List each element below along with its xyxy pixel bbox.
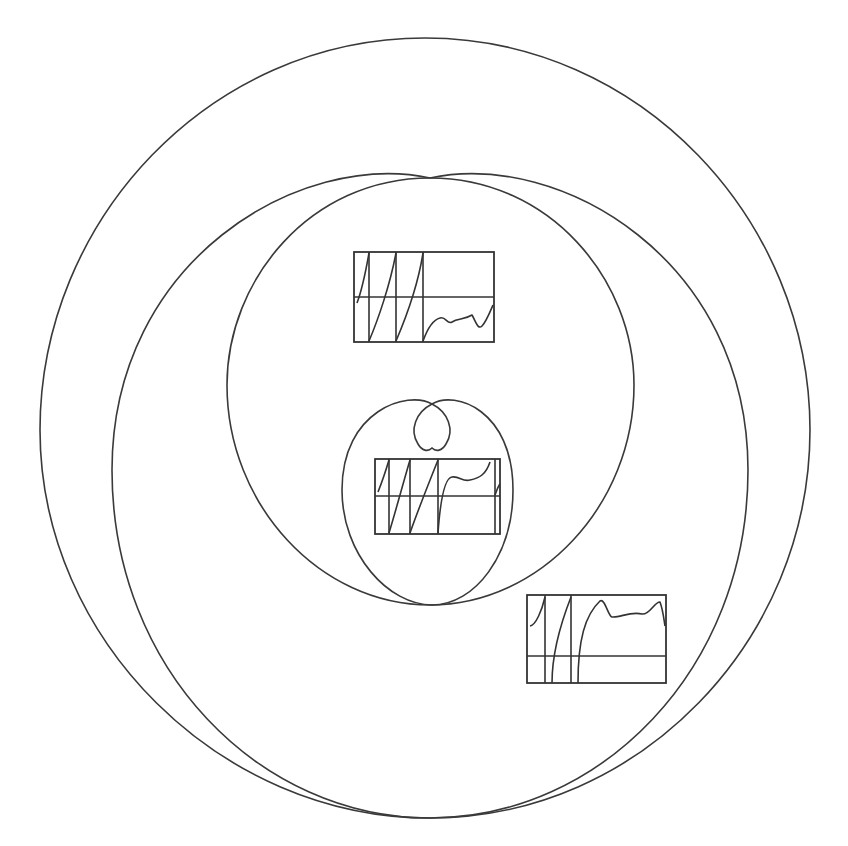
- inset-plot-3: [527, 595, 666, 683]
- limacon-diagram: [0, 0, 848, 846]
- inset-plot-1: [354, 252, 494, 342]
- inset-plot-2: [375, 459, 500, 534]
- small-inner-loop: [414, 404, 450, 450]
- outer-curve: [40, 38, 810, 818]
- inner-loop-curve: [227, 178, 634, 605]
